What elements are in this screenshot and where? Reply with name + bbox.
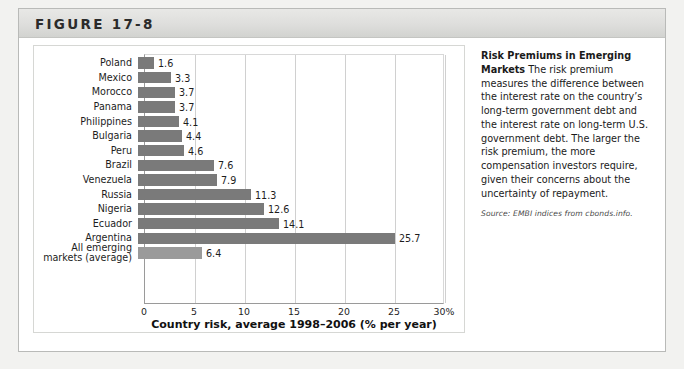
bar-value-label: 1.6	[154, 58, 173, 69]
bar	[138, 72, 171, 83]
bar	[138, 233, 395, 244]
bar	[138, 203, 264, 214]
bar-track: 1.6	[138, 56, 464, 71]
bar-track: 3.7	[138, 100, 464, 115]
bar-track: 4.6	[138, 144, 464, 159]
caption-source: Source: EMBI indices from cbonds.info.	[481, 209, 653, 220]
x-tick-label: 10	[238, 306, 250, 317]
bar-category-label: Bulgaria	[34, 131, 138, 141]
bar-track: 6.4	[138, 246, 464, 261]
bar-row: Morocco3.7	[34, 85, 464, 100]
bar-row: Venezuela7.9	[34, 173, 464, 188]
bar-track: 7.6	[138, 158, 464, 173]
caption-body: The risk premium measures the difference…	[481, 64, 648, 199]
bar	[138, 130, 182, 141]
bar	[138, 57, 154, 68]
bar-category-label: Panama	[34, 102, 138, 112]
bar	[138, 247, 202, 258]
bar-value-label: 14.1	[279, 218, 304, 229]
bar-row: Brazil7.6	[34, 158, 464, 173]
bar-category-label: Ecuador	[34, 219, 138, 229]
bar-track: 14.1	[138, 217, 464, 232]
figure-number-label: FIGURE 17-8	[35, 16, 155, 32]
bar-row: Bulgaria4.4	[34, 129, 464, 144]
x-tick-label: 25	[388, 306, 400, 317]
bar-track: 4.1	[138, 114, 464, 129]
figure-frame: FIGURE 17-8 Poland1.6Mexico3.3Morocco3.7…	[18, 8, 666, 352]
bar	[138, 174, 217, 185]
bar-category-label: Peru	[34, 146, 138, 156]
bar	[138, 189, 251, 200]
bar-category-label: Brazil	[34, 160, 138, 170]
bar-value-label: 4.1	[179, 116, 198, 127]
bar-track: 7.9	[138, 173, 464, 188]
bar	[138, 160, 214, 171]
figure-caption: Risk Premiums in Emerging Markets The ri…	[481, 49, 653, 220]
x-axis-title-text: Country risk, average 1998–2006 (% per y…	[61, 318, 437, 331]
bar-value-label: 6.4	[202, 248, 221, 259]
bar-row: Mexico3.3	[34, 71, 464, 86]
bar	[138, 145, 184, 156]
bar-value-label: 3.7	[175, 87, 194, 98]
x-axis-title: Country risk, average 1998–2006 (% per y…	[34, 318, 464, 331]
bar-track: 4.4	[138, 129, 464, 144]
bar-track: 3.3	[138, 71, 464, 86]
bar-track: 11.3	[138, 187, 464, 202]
bar	[138, 101, 175, 112]
bar-value-label: 25.7	[395, 233, 420, 244]
bar-category-label: Russia	[34, 190, 138, 200]
figure-page: FIGURE 17-8 Poland1.6Mexico3.3Morocco3.7…	[0, 0, 684, 369]
bar-value-label: 4.4	[182, 131, 201, 142]
bar	[138, 116, 179, 127]
bar-track: 25.7	[138, 231, 464, 246]
bar-track: 12.6	[138, 202, 464, 217]
bar-row: All emergingmarkets (average)6.4	[34, 246, 464, 261]
bar-track: 3.7	[138, 85, 464, 100]
chart-plate: Poland1.6Mexico3.3Morocco3.7Panama3.7Phi…	[33, 45, 465, 333]
bar-rows: Poland1.6Mexico3.3Morocco3.7Panama3.7Phi…	[34, 56, 464, 260]
bar-value-label: 11.3	[251, 189, 276, 200]
bar-row: Ecuador14.1	[34, 217, 464, 232]
x-tick-label: 0	[141, 306, 147, 317]
bar-row: Philippines4.1	[34, 114, 464, 129]
bar-value-label: 4.6	[184, 145, 203, 156]
bar-row: Peru4.6	[34, 144, 464, 159]
bar-category-label: Nigeria	[34, 204, 138, 214]
bar-category-label: All emergingmarkets (average)	[34, 243, 138, 263]
bar-category-label: Poland	[34, 58, 138, 68]
bar	[138, 87, 175, 98]
x-tick-label: 30%	[434, 306, 455, 317]
bar-row: Russia11.3	[34, 187, 464, 202]
bar-value-label: 3.7	[175, 102, 194, 113]
bar-row: Panama3.7	[34, 100, 464, 115]
bar-value-label: 3.3	[171, 72, 190, 83]
x-tick-label: 20	[338, 306, 350, 317]
bar-value-label: 7.6	[214, 160, 233, 171]
bar-value-label: 7.9	[217, 175, 236, 186]
bar-value-label: 12.6	[264, 204, 289, 215]
x-tick-label: 15	[288, 306, 300, 317]
bar-row: Poland1.6	[34, 56, 464, 71]
bar-chart: Poland1.6Mexico3.3Morocco3.7Panama3.7Phi…	[34, 46, 464, 332]
bar-category-label: Morocco	[34, 87, 138, 97]
bar-category-label: Philippines	[34, 117, 138, 127]
figure-header-band: FIGURE 17-8	[19, 9, 665, 38]
bar-category-label: Mexico	[34, 73, 138, 83]
bar-row: Nigeria12.6	[34, 202, 464, 217]
x-tick-label: 5	[191, 306, 197, 317]
bar	[138, 218, 279, 229]
bar-category-label: Venezuela	[34, 175, 138, 185]
